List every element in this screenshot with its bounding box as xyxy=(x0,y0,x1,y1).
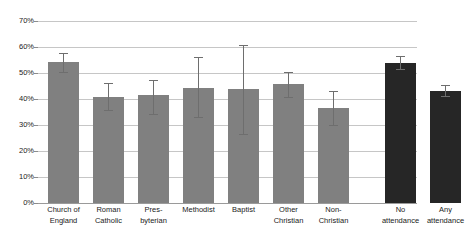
x-tick-label-any-attendance: Anyattendance xyxy=(420,205,469,226)
error-bar-stem xyxy=(108,83,109,110)
error-bar-cap-lower xyxy=(441,96,450,97)
error-bar-stem xyxy=(198,57,199,116)
error-bar-stem xyxy=(63,53,64,72)
error-bar-stem xyxy=(333,91,334,125)
error-bar-stem xyxy=(243,45,244,134)
y-tick-label: 50% xyxy=(0,69,34,77)
y-tick-label: 70% xyxy=(0,17,34,25)
x-tick-label-line: byterian xyxy=(128,216,180,227)
error-bar-stem xyxy=(153,80,154,113)
error-bar-cap-upper xyxy=(396,56,405,57)
y-tick-mark xyxy=(34,203,38,204)
error-bar-cap-upper xyxy=(194,57,203,58)
error-bar-church-of-england xyxy=(48,21,79,203)
error-bar-cap-upper xyxy=(441,85,450,86)
y-tick-mark xyxy=(34,47,38,48)
y-tick-mark xyxy=(34,125,38,126)
x-tick-label-line: Christian xyxy=(308,216,360,227)
error-bar-roman-catholic xyxy=(93,21,124,203)
error-bar-methodist xyxy=(183,21,214,203)
y-tick-label: 10% xyxy=(0,173,34,181)
y-tick-label: 40% xyxy=(0,95,34,103)
error-bar-cap-lower xyxy=(239,134,248,135)
y-tick-mark xyxy=(34,99,38,100)
error-bar-non-christian xyxy=(318,21,349,203)
error-bar-cap-upper xyxy=(59,53,68,54)
y-tick-label: 60% xyxy=(0,43,34,51)
x-tick-label-non-christian: Non-Christian xyxy=(308,205,360,226)
error-bar-cap-lower xyxy=(149,114,158,115)
y-tick-mark xyxy=(34,177,38,178)
error-bar-cap-lower xyxy=(194,117,203,118)
error-bar-any-attendance xyxy=(430,21,461,203)
x-tick-label-line: Non- xyxy=(308,205,360,216)
gridline-0 xyxy=(38,203,417,204)
error-bar-cap-lower xyxy=(59,72,68,73)
error-bar-cap-upper xyxy=(329,91,338,92)
error-bar-cap-upper xyxy=(284,72,293,73)
error-bar-cap-upper xyxy=(104,83,113,84)
error-bar-cap-lower xyxy=(284,97,293,98)
error-bar-stem xyxy=(288,72,289,98)
x-tick-label-line: attendance xyxy=(420,216,469,227)
error-bar-stem xyxy=(445,85,446,96)
error-bar-cap-upper xyxy=(149,80,158,81)
y-tick-mark xyxy=(34,151,38,152)
y-tick-label: 30% xyxy=(0,121,34,129)
y-tick-mark xyxy=(34,21,38,22)
error-bar-cap-upper xyxy=(239,45,248,46)
x-axis-tick-labels: Church ofEnglandRomanCatholicPres-byteri… xyxy=(38,205,417,241)
y-tick-label: 20% xyxy=(0,147,34,155)
y-tick-mark xyxy=(34,73,38,74)
plot-area: 0%10%20%30%40%50%60%70% xyxy=(38,21,417,203)
y-tick-label: 0% xyxy=(0,199,34,207)
error-bar-presbyterian xyxy=(138,21,169,203)
error-bar-no-attendance xyxy=(385,21,416,203)
error-bar-cap-lower xyxy=(329,125,338,126)
error-bar-cap-lower xyxy=(396,69,405,70)
error-bar-cap-lower xyxy=(104,110,113,111)
x-tick-label-line: Any xyxy=(420,205,469,216)
error-bar-stem xyxy=(400,56,401,69)
error-bar-baptist xyxy=(228,21,259,203)
error-bar-other-christian xyxy=(273,21,304,203)
